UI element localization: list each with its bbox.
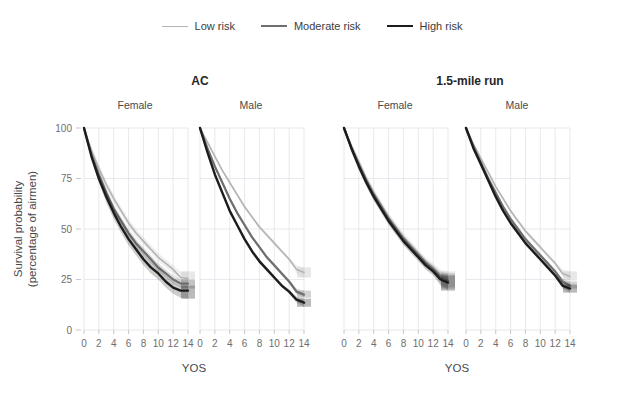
x-tick-label: 14 (564, 338, 576, 349)
survival-curve[interactable] (344, 128, 448, 281)
survival-curve[interactable] (344, 128, 448, 278)
x-tick-label: 8 (141, 338, 147, 349)
x-tick-label: 14 (442, 338, 454, 349)
x-tick-label: 10 (153, 338, 165, 349)
x-tick-label: 0 (463, 338, 469, 349)
y-tick-label: 75 (61, 173, 73, 184)
x-tick-label: 12 (284, 338, 296, 349)
x-tick-label: 14 (182, 338, 194, 349)
confidence-band (466, 128, 570, 293)
x-tick-label: 4 (111, 338, 117, 349)
x-tick-label: 12 (428, 338, 440, 349)
x-tick-label: 6 (126, 338, 132, 349)
confidence-band (466, 128, 570, 281)
x-tick-label: 6 (386, 338, 392, 349)
x-tick-label: 2 (212, 338, 218, 349)
x-axis-title: YOS (445, 362, 470, 374)
x-tick-label: 10 (413, 338, 425, 349)
confidence-band (344, 128, 448, 287)
x-tick-label: 8 (523, 338, 529, 349)
survival-curve[interactable] (466, 128, 570, 276)
terminal-ci-box (297, 291, 311, 298)
x-tick-label: 0 (197, 338, 203, 349)
y-axis-title-line-1: Survival probability (12, 180, 24, 277)
terminal-ci-box (297, 299, 311, 307)
x-axis-title: YOS (182, 362, 207, 374)
x-tick-label: 2 (478, 338, 484, 349)
x-tick-label: 0 (81, 338, 87, 349)
confidence-band (200, 128, 304, 298)
plot-canvas: 0255075100024681012140246810121402468101… (0, 0, 624, 400)
terminal-ci-box (563, 271, 577, 280)
x-tick-label: 6 (242, 338, 248, 349)
x-tick-label: 2 (356, 338, 362, 349)
y-tick-label: 100 (55, 123, 72, 134)
survival-curve[interactable] (84, 128, 188, 284)
terminal-ci-box (563, 285, 577, 293)
terminal-ci-box (297, 267, 311, 277)
x-tick-label: 6 (508, 338, 514, 349)
y-axis-title-line-2: (percentage of airmen) (26, 171, 38, 288)
x-tick-label: 12 (168, 338, 180, 349)
x-tick-label: 4 (371, 338, 377, 349)
x-tick-label: 4 (227, 338, 233, 349)
terminal-ci-box (181, 286, 195, 299)
x-tick-label: 10 (535, 338, 547, 349)
x-tick-label: 4 (493, 338, 499, 349)
x-tick-label: 10 (269, 338, 281, 349)
survival-curve-figure: Low riskModerate riskHigh risk AC 1.5-mi… (0, 0, 624, 400)
y-tick-label: 50 (61, 224, 73, 235)
survival-curve[interactable] (344, 128, 448, 283)
confidence-band (84, 128, 188, 286)
survival-curve[interactable] (84, 128, 188, 278)
x-tick-label: 14 (298, 338, 310, 349)
x-tick-label: 0 (341, 338, 347, 349)
x-tick-label: 8 (257, 338, 263, 349)
confidence-band (200, 128, 304, 277)
x-tick-label: 2 (96, 338, 102, 349)
confidence-band (84, 128, 188, 299)
survival-curve[interactable] (200, 128, 304, 295)
terminal-ci-box (441, 275, 455, 290)
x-tick-label: 12 (550, 338, 562, 349)
x-tick-label: 8 (401, 338, 407, 349)
confidence-band (84, 128, 188, 289)
y-tick-label: 0 (66, 325, 72, 336)
y-tick-label: 25 (61, 274, 73, 285)
